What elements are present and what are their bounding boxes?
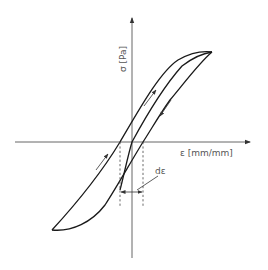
d-epsilon-leader-line <box>137 176 158 190</box>
y-axis-label: σ [Pa] <box>118 46 128 72</box>
unloading-direction-arrow <box>160 100 171 116</box>
hysteresis-diagram: σ [Pa] ε [mm/mm] dε <box>0 0 268 270</box>
d-epsilon-label: dε <box>155 166 166 176</box>
lower-loading-direction-arrow <box>96 154 108 170</box>
x-axis-label: ε [mm/mm] <box>180 148 233 158</box>
middle-curve <box>120 52 212 190</box>
